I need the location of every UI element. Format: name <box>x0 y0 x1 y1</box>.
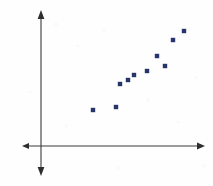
data-points-layer <box>91 29 186 112</box>
data-point <box>132 73 136 77</box>
plot-canvas <box>0 0 213 186</box>
image-artifact <box>103 29 106 32</box>
x-axis-arrow-right-icon <box>197 143 205 150</box>
data-point <box>126 78 130 82</box>
image-artifact <box>203 165 206 168</box>
image-artifact <box>77 45 80 48</box>
y-axis-arrow-down-icon <box>38 167 45 176</box>
image-artifact <box>117 167 120 170</box>
image-artifact <box>177 121 180 124</box>
x-axis-arrow-left-icon <box>22 143 29 149</box>
data-point <box>91 108 95 112</box>
image-artifact <box>146 98 149 101</box>
image-artifact <box>195 77 198 80</box>
data-point <box>171 38 175 42</box>
data-point <box>155 54 159 58</box>
data-point <box>114 105 118 109</box>
image-artifact <box>54 22 57 25</box>
background-noise-layer <box>29 22 206 169</box>
image-artifact <box>29 91 31 93</box>
scatter-plot-figure <box>0 0 213 186</box>
data-point <box>145 69 149 73</box>
data-point <box>163 64 167 68</box>
y-axis-arrow-up-icon <box>38 10 45 19</box>
data-point <box>118 82 122 86</box>
image-artifact <box>65 125 68 128</box>
data-point <box>182 29 186 33</box>
axes-group <box>22 10 205 176</box>
